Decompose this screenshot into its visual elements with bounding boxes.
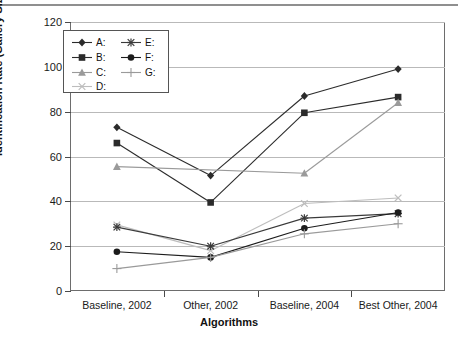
gridline <box>70 112 445 113</box>
x-tick-label: Other, 2002 <box>183 299 238 311</box>
legend-marker-star-icon <box>120 37 142 48</box>
x-tick-mark <box>258 291 259 297</box>
legend-entry-D[interactable]: D: <box>71 81 106 92</box>
y-tick-label: 40 <box>34 195 62 207</box>
y-tick-label: 60 <box>34 151 62 163</box>
x-tick-label: Best Other, 2004 <box>359 299 438 311</box>
legend-marker-triangle-icon <box>71 67 93 78</box>
legend-label: F: <box>145 52 154 63</box>
legend-entry-E[interactable]: E: <box>120 37 154 48</box>
legend-label: A: <box>96 37 105 48</box>
y-tick-label: 120 <box>34 16 62 28</box>
legend-box: A:B:C:D:E:F:G: <box>63 30 169 93</box>
legend-label: B: <box>96 52 105 63</box>
x-tick-mark <box>164 291 165 297</box>
x-tick-label: Baseline, 2002 <box>82 299 151 311</box>
gridline <box>70 201 445 202</box>
legend-label: G: <box>145 67 156 78</box>
legend-label: C: <box>96 67 106 78</box>
legend-label: D: <box>96 81 106 92</box>
y-tick-mark <box>65 291 71 292</box>
y-tick-mark <box>65 112 71 113</box>
y-tick-label: 80 <box>34 106 62 118</box>
legend-marker-x-icon <box>71 81 93 92</box>
y-tick-label: 0 <box>34 285 62 297</box>
legend-marker-diamond-icon <box>71 37 93 48</box>
legend-marker-square-icon <box>71 52 93 63</box>
y-tick-mark <box>65 22 71 23</box>
gridline <box>70 22 445 23</box>
y-tick-mark <box>65 157 71 158</box>
legend-entry-F[interactable]: F: <box>120 52 154 63</box>
x-tick-label: Baseline, 2004 <box>270 299 339 311</box>
scan-artifact-rule <box>0 4 458 6</box>
y-axis-title: Identification Rate (Gallery Size = 71) <box>0 0 4 156</box>
legend-entry-C[interactable]: C: <box>71 67 106 78</box>
legend-entry-G[interactable]: G: <box>120 67 156 78</box>
gridline <box>70 157 445 158</box>
legend-marker-circle-icon <box>120 52 142 63</box>
legend-entries: A:B:C:D:E:F:G: <box>64 31 168 92</box>
chart-figure: 020406080100120 Baseline, 2002Other, 200… <box>0 0 458 348</box>
legend-entry-A[interactable]: A: <box>71 37 105 48</box>
legend-label: E: <box>145 37 154 48</box>
legend-marker-plus-icon <box>120 67 142 78</box>
y-tick-mark <box>65 246 71 247</box>
gridline <box>70 246 445 247</box>
x-tick-mark <box>351 291 352 297</box>
y-tick-label: 20 <box>34 240 62 252</box>
y-tick-mark <box>65 201 71 202</box>
x-axis-title: Algorithms <box>0 316 458 328</box>
y-tick-label: 100 <box>34 61 62 73</box>
legend-entry-B[interactable]: B: <box>71 52 105 63</box>
